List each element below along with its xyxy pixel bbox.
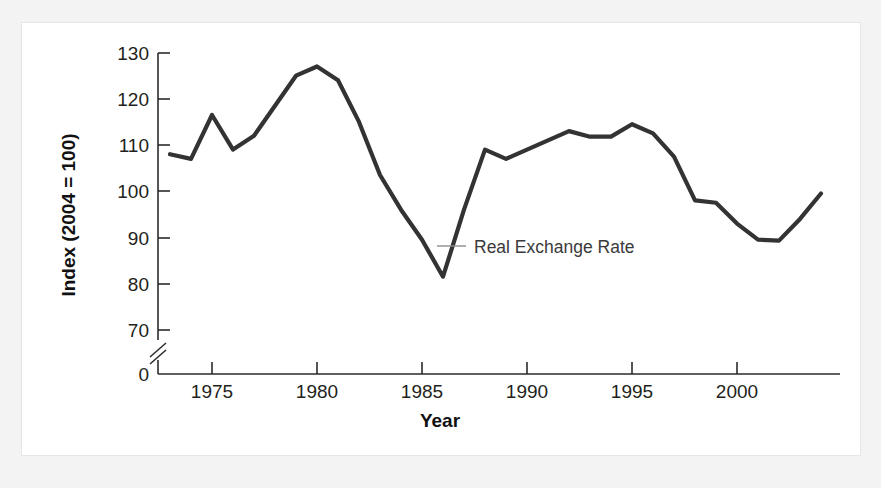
figure-background: 130 120 110 100 90 80 70 0 1975 1980 198… [0, 0, 881, 488]
y-tick-marks [158, 53, 170, 330]
x-tick-label-1985: 1985 [401, 381, 443, 402]
annotation-real-exchange-rate: Real Exchange Rate [474, 237, 635, 257]
x-tick-marks [212, 362, 737, 374]
x-tick-label-1990: 1990 [506, 381, 548, 402]
y-axis-title: Index (2004 = 100) [58, 133, 79, 296]
x-tick-label-1975: 1975 [191, 381, 233, 402]
y-tick-label-70: 70 [128, 320, 149, 341]
y-tick-label-130: 130 [117, 43, 149, 64]
y-tick-label-0: 0 [138, 364, 149, 385]
line-chart: 130 120 110 100 90 80 70 0 1975 1980 198… [0, 0, 881, 488]
y-tick-label-110: 110 [119, 135, 149, 156]
y-tick-label-90: 90 [128, 228, 149, 249]
y-tick-label-100: 100 [117, 181, 149, 202]
y-tick-label-80: 80 [128, 274, 149, 295]
y-tick-label-120: 120 [117, 89, 149, 110]
x-tick-label-1980: 1980 [296, 381, 338, 402]
x-axis-title: Year [420, 410, 461, 431]
x-tick-label-1995: 1995 [611, 381, 653, 402]
x-tick-label-2000: 2000 [716, 381, 758, 402]
